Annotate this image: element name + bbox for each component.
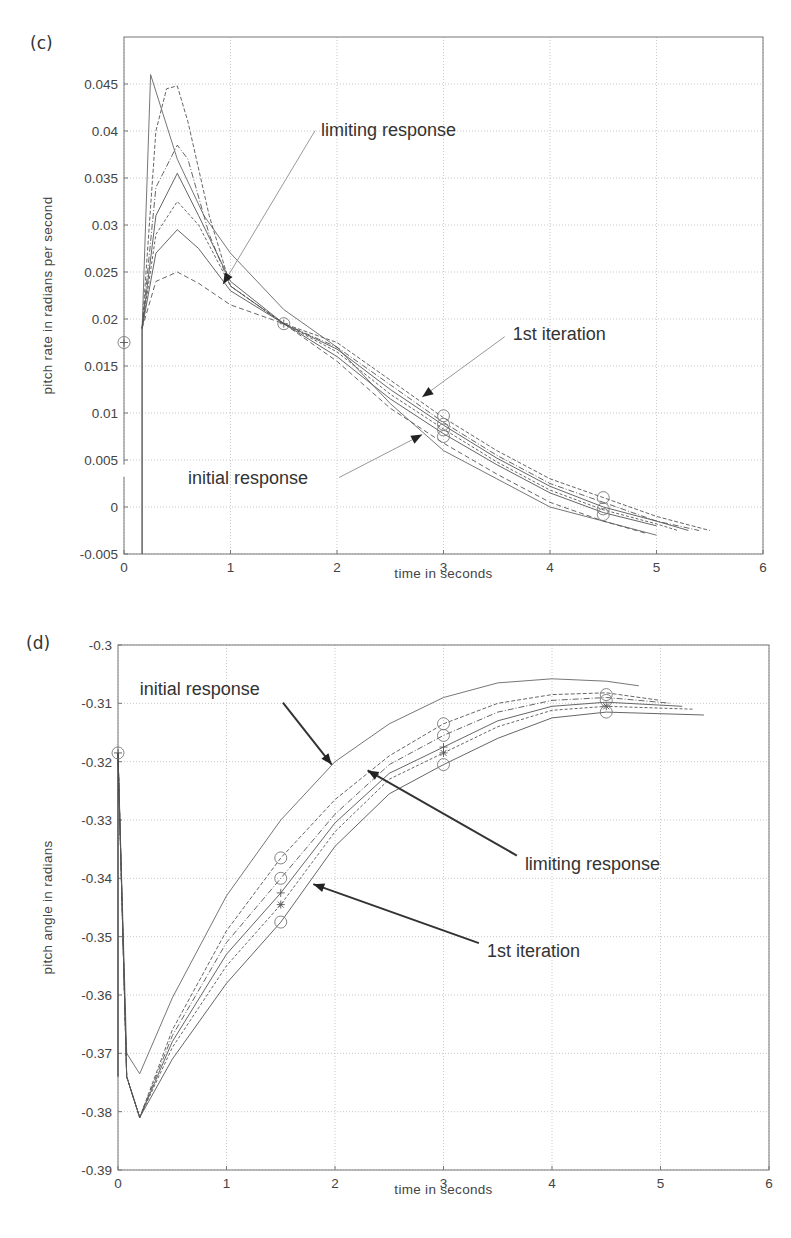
- chart-pitch-rate: 0123456-0.00500.0050.010.0150.020.0250.0…: [40, 37, 767, 581]
- x-tick-label: 6: [765, 1176, 773, 1191]
- y-tick-label: 0.035: [84, 171, 118, 186]
- annotation-label: 1st iteration: [513, 324, 606, 344]
- y-tick-label: 0.01: [92, 406, 118, 421]
- data-markers: [112, 689, 612, 929]
- y-axis-label: pitch angle in radians: [40, 840, 55, 974]
- x-axis-label: time in seconds: [394, 566, 492, 581]
- y-tick-label: -0.34: [81, 871, 112, 886]
- y-tick-label: -0.39: [81, 1163, 112, 1178]
- y-tick-label: -0.3: [89, 638, 112, 653]
- series-line-iteration-a: [118, 693, 661, 1118]
- x-tick-label: 1: [227, 560, 235, 575]
- arrowhead-icon: [313, 884, 325, 892]
- data-markers: [118, 318, 609, 521]
- arrow-line: [422, 337, 505, 397]
- y-tick-label: 0.045: [84, 77, 118, 92]
- x-tick-label: 1: [223, 1176, 231, 1191]
- x-tick-label: 2: [331, 1176, 339, 1191]
- y-tick-label: 0.02: [92, 312, 118, 327]
- series-line-iteration-c: [118, 702, 682, 1117]
- x-tick-label: 5: [653, 560, 661, 575]
- arrow-line: [283, 703, 332, 765]
- circle-marker-icon: [275, 852, 287, 864]
- series-line-limiting-response: [118, 706, 693, 1117]
- annotation-label: initial response: [188, 468, 308, 488]
- y-tick-label: 0.04: [92, 124, 119, 139]
- x-tick-label: 5: [657, 1176, 665, 1191]
- series-line-iteration-b: [118, 698, 671, 1118]
- arrow-line: [223, 131, 315, 285]
- y-tick-label: -0.38: [81, 1105, 112, 1120]
- series-line-initial-response: [118, 679, 639, 1074]
- x-tick-label: 2: [333, 560, 341, 575]
- x-tick-label: 4: [548, 1176, 556, 1191]
- data-series: [118, 679, 704, 1118]
- arrow-line: [339, 435, 422, 478]
- annotation-label: 1st iteration: [487, 941, 580, 961]
- y-tick-label: 0.03: [92, 218, 118, 233]
- x-tick-label: 0: [114, 1176, 122, 1191]
- y-axis-label: pitch rate in radians per second: [40, 197, 55, 395]
- annotation-label: limiting response: [525, 854, 660, 874]
- arrow-line: [368, 770, 517, 855]
- y-tick-label: -0.32: [81, 755, 112, 770]
- figure-canvas: 0123456-0.00500.0050.010.0150.020.0250.0…: [0, 0, 791, 1238]
- arrow-line: [313, 884, 479, 943]
- y-tick-label: -0.005: [80, 547, 118, 562]
- y-tick-label: 0.015: [84, 359, 118, 374]
- y-tick-label: -0.31: [81, 696, 112, 711]
- series-line-1st-iteration: [118, 712, 704, 1117]
- y-tick-label: -0.35: [81, 930, 112, 945]
- annotation-label: initial response: [140, 679, 260, 699]
- x-tick-label: 0: [120, 560, 128, 575]
- y-tick-label: -0.36: [81, 988, 112, 1003]
- arrowhead-icon: [422, 387, 434, 397]
- y-tick-label: -0.37: [81, 1046, 112, 1061]
- series-line-iteration-a: [142, 86, 710, 531]
- axis-gap: [122, 465, 127, 477]
- y-tick-label: -0.33: [81, 813, 112, 828]
- y-tick-label: 0.005: [84, 453, 118, 468]
- y-tick-label: 0: [110, 500, 118, 515]
- chart-pitch-angle: 0123456-0.3-0.31-0.32-0.33-0.34-0.35-0.3…: [40, 638, 773, 1197]
- x-tick-label: 6: [759, 560, 767, 575]
- y-tick-label: 0.025: [84, 265, 118, 280]
- x-tick-label: 4: [546, 560, 554, 575]
- x-axis-label: time in seconds: [394, 1182, 492, 1197]
- arrowhead-icon: [410, 435, 422, 444]
- annotation-label: limiting response: [321, 120, 456, 140]
